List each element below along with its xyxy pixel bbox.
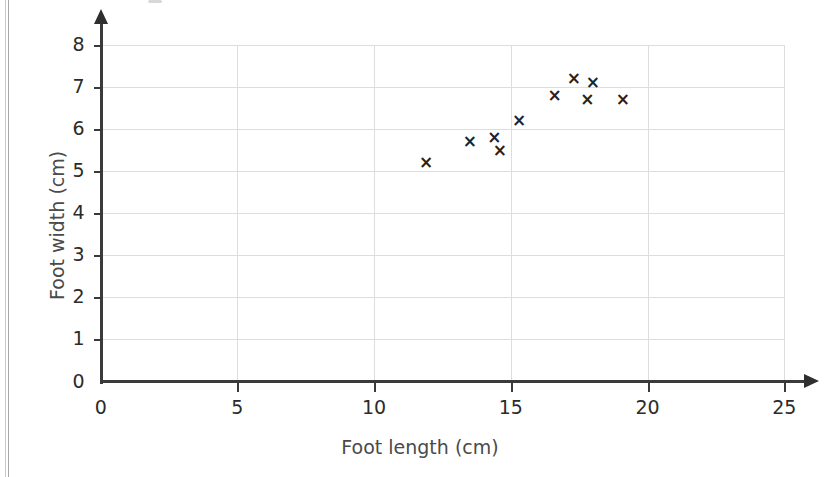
x-axis-tick xyxy=(511,383,513,392)
data-point-marker: × xyxy=(580,91,594,108)
x-axis-line xyxy=(100,380,805,383)
x-axis-tick-label: 20 xyxy=(628,398,668,417)
gridline-vertical xyxy=(237,45,238,382)
data-point-marker: × xyxy=(512,112,526,129)
x-axis-tick xyxy=(374,383,376,392)
x-axis-tick-label: 0 xyxy=(81,398,121,417)
x-axis-tick-label: 15 xyxy=(491,398,531,417)
y-axis-tick xyxy=(94,255,103,257)
scatter-plot-figure: 012345678 0510152025 ×××××××××× Foot len… xyxy=(0,0,840,477)
y-axis-tick xyxy=(94,87,103,89)
gridline-vertical xyxy=(784,45,785,382)
x-axis-label: Foot length (cm) xyxy=(0,436,840,458)
data-point-marker: × xyxy=(547,87,561,104)
plot-area: 012345678 0510152025 ×××××××××× Foot len… xyxy=(0,0,840,477)
data-point-marker: × xyxy=(586,74,600,91)
x-axis-tick-label: 25 xyxy=(764,398,804,417)
gridline-horizontal xyxy=(103,339,785,340)
y-axis-line xyxy=(100,22,103,384)
y-axis-tick-label: 7 xyxy=(61,77,85,96)
gridline-horizontal xyxy=(103,129,785,130)
data-point-marker: × xyxy=(493,141,507,158)
y-axis-tick-label: 8 xyxy=(61,35,85,54)
y-axis-tick-label: 1 xyxy=(61,329,85,348)
y-axis-tick xyxy=(94,45,103,47)
x-axis-tick xyxy=(784,383,786,392)
y-axis-arrowhead xyxy=(94,9,108,24)
x-axis-arrowhead xyxy=(804,374,819,388)
x-axis-tick-label: 10 xyxy=(354,398,394,417)
data-point-marker: × xyxy=(463,133,477,150)
y-axis-tick xyxy=(94,339,103,341)
x-axis-tick xyxy=(237,383,239,392)
y-axis-tick xyxy=(94,129,103,131)
gridline-vertical xyxy=(374,45,375,382)
data-point-marker: × xyxy=(419,154,433,171)
gridline-horizontal xyxy=(103,45,785,46)
gridline-vertical xyxy=(648,45,649,382)
gridline-horizontal xyxy=(103,213,785,214)
gridline-vertical xyxy=(511,45,512,382)
gridline-horizontal xyxy=(103,297,785,298)
gridline-horizontal xyxy=(103,87,785,88)
x-axis-tick xyxy=(648,383,650,392)
gridline-horizontal xyxy=(103,255,785,256)
y-axis-label: Foot width (cm) xyxy=(46,151,68,300)
y-axis-tick xyxy=(94,171,103,173)
y-axis-tick-label: 0 xyxy=(61,372,85,391)
y-axis-tick xyxy=(94,297,103,299)
gridline-horizontal xyxy=(103,171,785,172)
data-point-marker: × xyxy=(567,70,581,87)
y-axis-tick-label: 6 xyxy=(61,119,85,138)
x-axis-tick-label: 5 xyxy=(217,398,257,417)
data-point-marker: × xyxy=(616,91,630,108)
y-axis-tick xyxy=(94,213,103,215)
